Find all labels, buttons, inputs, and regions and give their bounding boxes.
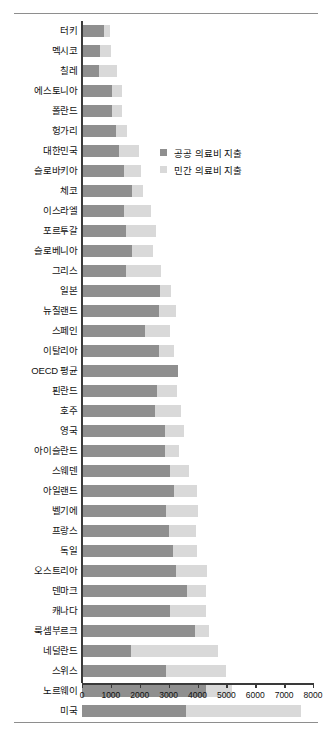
category-label: 아이슬란드	[34, 441, 78, 461]
bar-segment-public	[82, 225, 126, 237]
bar-track	[82, 405, 313, 417]
bar-track	[82, 565, 313, 577]
bar-segment-public	[82, 445, 165, 457]
bar-segment-public	[82, 125, 116, 137]
bar-segment-public	[82, 325, 145, 337]
bar-segment-private	[116, 125, 127, 137]
bar-track	[82, 525, 313, 537]
chart-row: 일본	[0, 281, 332, 301]
chart-row: 룩셈부르크	[0, 621, 332, 641]
y-axis-spine	[81, 21, 83, 683]
x-axis-tick-label: 4000	[188, 690, 207, 700]
chart-row: 폴란드	[0, 101, 332, 121]
category-label: 미국	[60, 701, 78, 721]
bar-track	[82, 385, 313, 397]
x-axis-tick	[140, 683, 141, 688]
bar-track	[82, 125, 313, 137]
category-label: 일본	[60, 281, 78, 301]
plot-area: 터키멕시코칠레에스토니아폴란드헝가리대한민국슬로바키아체코이스라엘포르투갈슬로베…	[0, 21, 332, 683]
chart-row: 캐나다	[0, 601, 332, 621]
chart-row: 스웨덴	[0, 461, 332, 481]
bar-segment-public	[82, 65, 99, 77]
bar-track	[82, 325, 313, 337]
bar-track	[82, 665, 313, 677]
legend-swatch-public-icon	[160, 149, 167, 156]
category-label: 프랑스	[52, 521, 78, 541]
bar-track	[82, 465, 313, 477]
bar-segment-public	[82, 165, 124, 177]
bar-track	[82, 85, 313, 97]
bar-segment-public	[82, 385, 157, 397]
category-label: 포르투갈	[43, 221, 78, 241]
chart-row: 이스라엘	[0, 201, 332, 221]
bar-track	[82, 245, 313, 257]
bar-segment-public	[82, 205, 124, 217]
x-axis-tick-label: 0	[80, 690, 85, 700]
bar-segment-public	[82, 465, 170, 477]
bar-segment-private	[99, 65, 117, 77]
category-label: 룩셈부르크	[34, 621, 78, 641]
chart-row: 오스트리아	[0, 561, 332, 581]
bar-segment-public	[82, 25, 104, 37]
legend-item-private: 민간 의료비 지출	[160, 161, 242, 178]
category-label: 칠레	[60, 61, 78, 81]
legend-label-public: 공공 의료비 지출	[174, 146, 242, 160]
category-label: 캐나다	[52, 601, 78, 621]
category-label: 노르웨이	[43, 681, 78, 701]
bar-track	[82, 65, 313, 77]
bar-segment-private	[165, 425, 184, 437]
bar-segment-private	[132, 245, 154, 257]
chart-row: 스페인	[0, 321, 332, 341]
bar-track	[82, 365, 313, 377]
x-axis-tick-label: 5000	[217, 690, 236, 700]
category-label: 슬로바키아	[34, 161, 78, 181]
chart-row: 칠레	[0, 61, 332, 81]
bar-segment-private	[170, 465, 189, 477]
bar-track	[82, 605, 313, 617]
category-label: OECD 평균	[31, 361, 78, 381]
chart-row: 그리스	[0, 261, 332, 281]
bar-track	[82, 425, 313, 437]
bar-segment-public	[82, 705, 186, 717]
chart-row: 슬로베니아	[0, 241, 332, 261]
bar-segment-public	[82, 145, 119, 157]
bar-track	[82, 265, 313, 277]
bar-segment-public	[82, 425, 165, 437]
x-axis-tick-label: 8000	[304, 690, 323, 700]
chart-row: 미국	[0, 701, 332, 721]
category-label: 폴란드	[52, 101, 78, 121]
category-label: 네덜란드	[43, 641, 78, 661]
chart-row: 아이슬란드	[0, 441, 332, 461]
bar-segment-public	[82, 565, 176, 577]
x-axis-tick	[284, 683, 285, 688]
category-label: 독일	[60, 541, 78, 561]
bar-segment-private	[124, 165, 140, 177]
bar-segment-private	[187, 585, 206, 597]
chart-row: 에스토니아	[0, 81, 332, 101]
x-axis-tick	[313, 683, 314, 688]
bar-segment-private	[126, 225, 156, 237]
legend-label-private: 민간 의료비 지출	[174, 163, 242, 177]
bar-segment-private	[159, 305, 176, 317]
bar-track	[82, 45, 313, 57]
category-label: 벨기에	[52, 501, 78, 521]
bar-segment-public	[82, 265, 126, 277]
bar-segment-private	[166, 505, 198, 517]
x-axis-tick	[255, 683, 256, 688]
chart-row: 멕시코	[0, 41, 332, 61]
bar-segment-private	[165, 445, 179, 457]
category-label: 이스라엘	[43, 201, 78, 221]
bar-track	[82, 585, 313, 597]
bar-track	[82, 205, 313, 217]
category-label: 그리스	[52, 261, 78, 281]
bar-segment-public	[82, 505, 166, 517]
bar-segment-public	[82, 525, 169, 537]
bar-segment-public	[82, 665, 166, 677]
bar-segment-public	[82, 405, 155, 417]
category-label: 영국	[60, 421, 78, 441]
chart-row: 체코	[0, 181, 332, 201]
bar-segment-public	[82, 605, 170, 617]
bar-segment-public	[82, 85, 112, 97]
bar-segment-private	[159, 345, 173, 357]
category-label: 호주	[60, 401, 78, 421]
